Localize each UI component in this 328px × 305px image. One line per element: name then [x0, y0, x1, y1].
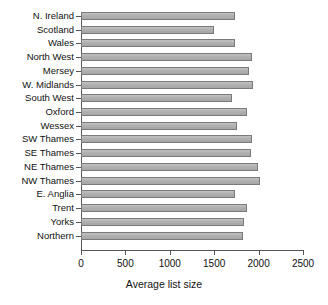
y-axis-tick	[76, 30, 81, 31]
x-axis-tick-label: 1000	[159, 258, 181, 269]
y-axis-tick	[76, 43, 81, 44]
y-axis-tick	[76, 181, 81, 182]
y-axis-tick-label: NE Thames	[0, 162, 74, 172]
x-axis-line	[81, 250, 304, 251]
y-axis-tick-label: South West	[0, 93, 74, 103]
bar	[81, 94, 232, 102]
y-axis-tick-label: W. Midlands	[0, 80, 74, 90]
y-axis-tick-label: N. Ireland	[0, 11, 74, 21]
x-axis-tick	[259, 250, 260, 255]
y-axis-tick-label: E. Anglia	[0, 189, 74, 199]
y-axis-tick	[76, 16, 81, 17]
bar	[81, 135, 252, 143]
bar	[81, 204, 247, 212]
bar	[81, 81, 253, 89]
bar	[81, 39, 235, 47]
bar	[81, 149, 251, 157]
bar	[81, 218, 244, 226]
bar-chart: N. IrelandScotlandWalesNorth WestMerseyW…	[0, 0, 328, 305]
x-axis-tick	[170, 250, 171, 255]
x-axis-tick-label: 500	[117, 258, 134, 269]
y-axis-tick	[76, 222, 81, 223]
y-axis-line	[81, 12, 82, 251]
y-axis-tick-label: SE Thames	[0, 148, 74, 158]
y-axis-tick	[76, 98, 81, 99]
y-axis-tick-label: Mersey	[0, 66, 74, 76]
bar	[81, 26, 214, 34]
x-axis-tick-label: 2500	[292, 258, 314, 269]
y-axis-tick-label: NW Thames	[0, 176, 74, 186]
y-axis-tick	[76, 236, 81, 237]
y-axis-tick-label: North West	[0, 52, 74, 62]
bar	[81, 190, 235, 198]
x-axis-title: Average list size	[0, 278, 328, 290]
y-axis-tick	[76, 57, 81, 58]
y-axis-tick	[76, 208, 81, 209]
y-axis-tick-label: Wessex	[0, 121, 74, 131]
y-axis-tick-label: Northern	[0, 231, 74, 241]
x-axis-tick-label: 0	[78, 258, 84, 269]
bar	[81, 53, 252, 61]
x-axis-tick-label: 1500	[203, 258, 225, 269]
x-axis-tick	[214, 250, 215, 255]
bar	[81, 122, 237, 130]
y-axis-tick	[76, 194, 81, 195]
y-axis-tick	[76, 126, 81, 127]
y-axis-tick-label: Wales	[0, 38, 74, 48]
bar	[81, 67, 249, 75]
bar	[81, 108, 247, 116]
y-axis-tick	[76, 139, 81, 140]
y-axis-tick	[76, 153, 81, 154]
y-axis-tick	[76, 85, 81, 86]
x-axis-tick	[81, 250, 82, 255]
y-axis-tick-label: Trent	[0, 203, 74, 213]
bar	[81, 12, 235, 20]
bar	[81, 163, 258, 171]
x-axis-tick-label: 2000	[247, 258, 269, 269]
y-axis-tick	[76, 71, 81, 72]
y-axis-tick	[76, 112, 81, 113]
bar	[81, 177, 260, 185]
x-axis-tick	[125, 250, 126, 255]
bar	[81, 232, 243, 240]
y-axis-tick-label: Scotland	[0, 25, 74, 35]
y-axis-tick-label: SW Thames	[0, 134, 74, 144]
y-axis-tick	[76, 167, 81, 168]
y-axis-tick-label: Oxford	[0, 107, 74, 117]
y-axis-tick-label: Yorks	[0, 217, 74, 227]
x-axis-tick	[303, 250, 304, 255]
